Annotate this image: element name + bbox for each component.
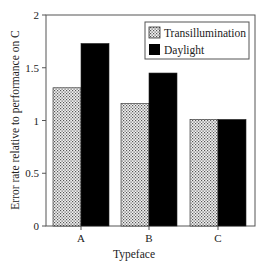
x-tick-label-c: C <box>214 232 221 244</box>
x-axis-label: Typeface <box>113 248 155 261</box>
legend-label-daylight: Daylight <box>164 44 205 57</box>
y-tick-label: 0.5 <box>25 167 39 179</box>
y-axis-label: Error rate relative to performance on C <box>9 30 22 210</box>
y-tick-label: 1 <box>34 115 40 127</box>
legend-swatch-transillumination <box>149 27 160 38</box>
x-axis-ticks: ABC <box>77 226 222 244</box>
y-tick-label: 2 <box>34 9 40 21</box>
bar-a-daylight <box>81 43 109 226</box>
legend-label-transillumination: Transillumination <box>164 27 246 39</box>
y-axis-ticks: 00.511.52 <box>25 9 46 232</box>
x-tick-label-b: B <box>145 232 152 244</box>
bar-b-daylight <box>149 73 177 226</box>
legend-swatch-daylight <box>149 44 160 55</box>
bar-a-transillumination <box>53 88 81 226</box>
x-tick-label-a: A <box>77 232 85 244</box>
bars-group <box>53 43 246 226</box>
legend: Transillumination Daylight <box>145 22 249 59</box>
y-tick-label: 0 <box>34 220 40 232</box>
bar-c-daylight <box>218 119 246 226</box>
bar-b-transillumination <box>121 104 149 226</box>
y-tick-label: 1.5 <box>25 62 39 74</box>
bar-c-transillumination <box>190 119 218 226</box>
bar-chart: 00.511.52 ABC Transillumination Daylight… <box>0 0 265 274</box>
